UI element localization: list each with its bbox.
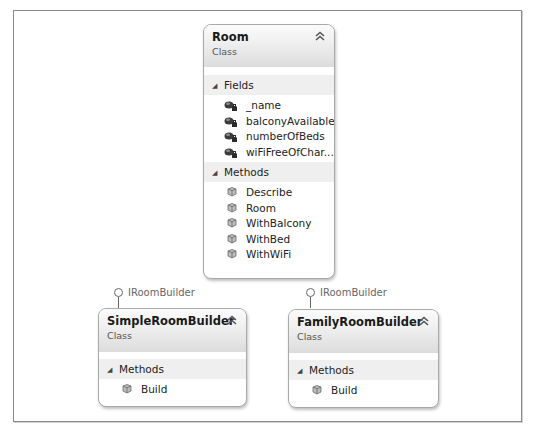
expand-triangle-icon: ◢	[212, 76, 224, 96]
section-title: Fields	[224, 79, 254, 91]
field-item[interactable]: numberOfBeds	[204, 129, 334, 145]
class-kind: Class	[297, 330, 430, 343]
class-name: Room	[212, 30, 326, 45]
method-icon	[224, 218, 238, 230]
section-title: Methods	[224, 166, 269, 178]
method-icon	[224, 249, 238, 261]
field-name: _name	[246, 98, 281, 114]
method-name: Build	[141, 382, 167, 398]
private-field-icon	[224, 116, 238, 128]
method-name: WithWiFi	[246, 247, 291, 263]
method-item[interactable]: WithBed	[204, 232, 334, 248]
collapse-chevron-icon[interactable]	[315, 31, 325, 41]
method-icon	[309, 385, 323, 397]
interface-connector-line	[310, 297, 311, 308]
interface-name: IRoomBuilder	[128, 287, 195, 299]
method-name: Build	[331, 383, 357, 399]
interface-name: IRoomBuilder	[320, 287, 387, 299]
method-item[interactable]: Build	[289, 383, 438, 399]
method-icon	[224, 187, 238, 199]
class-kind: Class	[212, 45, 326, 58]
method-item[interactable]: WithWiFi	[204, 247, 334, 263]
method-item[interactable]: Describe	[204, 185, 334, 201]
interface-connector-line	[118, 297, 119, 308]
class-family-room-builder[interactable]: FamilyRoomBuilder Class ◢Methods Build	[288, 309, 439, 408]
method-item[interactable]: Room	[204, 201, 334, 217]
method-item[interactable]: WithBalcony	[204, 216, 334, 232]
method-name: WithBed	[246, 232, 290, 248]
class-name: SimpleRoomBuilder	[107, 314, 238, 329]
field-name: wiFiFreeOfChar...	[246, 145, 334, 161]
expand-triangle-icon: ◢	[297, 361, 309, 381]
field-item[interactable]: wiFiFreeOfChar...	[204, 145, 334, 161]
class-room[interactable]: Room Class ◢Fields _name balconyAvailabl…	[203, 24, 335, 279]
method-icon	[119, 384, 133, 396]
private-field-icon	[224, 100, 238, 112]
field-name: balconyAvailable	[246, 114, 335, 130]
method-name: Describe	[246, 185, 292, 201]
method-icon	[224, 203, 238, 215]
method-name: Room	[246, 201, 276, 217]
field-item[interactable]: balconyAvailable	[204, 114, 334, 130]
method-name: WithBalcony	[246, 216, 311, 232]
interface-circle-icon	[114, 288, 123, 297]
private-field-icon	[224, 131, 238, 143]
method-icon	[224, 234, 238, 246]
section-methods[interactable]: ◢Methods	[289, 360, 438, 380]
collapse-chevron-icon[interactable]	[419, 316, 429, 326]
section-fields[interactable]: ◢Fields	[204, 75, 334, 95]
interface-circle-icon	[306, 288, 315, 297]
collapse-chevron-icon[interactable]	[227, 315, 237, 325]
class-header[interactable]: FamilyRoomBuilder Class	[289, 310, 438, 353]
class-header[interactable]: SimpleRoomBuilder Class	[99, 309, 246, 352]
expand-triangle-icon: ◢	[212, 163, 224, 183]
field-name: numberOfBeds	[246, 129, 325, 145]
field-item[interactable]: _name	[204, 98, 334, 114]
class-simple-room-builder[interactable]: SimpleRoomBuilder Class ◢Methods Build	[98, 308, 247, 407]
class-header[interactable]: Room Class	[204, 25, 334, 67]
private-field-icon	[224, 147, 238, 159]
class-kind: Class	[107, 329, 238, 342]
method-item[interactable]: Build	[99, 382, 246, 398]
expand-triangle-icon: ◢	[107, 360, 119, 380]
section-methods[interactable]: ◢Methods	[204, 162, 334, 182]
section-title: Methods	[309, 364, 354, 376]
section-methods[interactable]: ◢Methods	[99, 359, 246, 379]
section-title: Methods	[119, 363, 164, 375]
class-name: FamilyRoomBuilder	[297, 315, 430, 330]
